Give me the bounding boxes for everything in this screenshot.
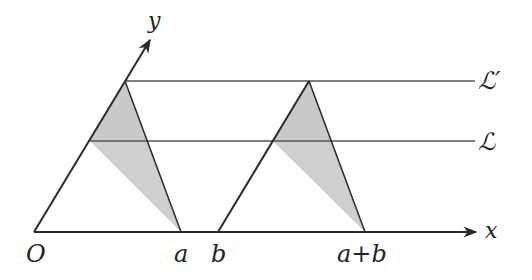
tick-label-a-plus-b: a+b bbox=[337, 240, 387, 268]
right-triangle-shading bbox=[273, 81, 365, 232]
diagram-canvas: y x O a b a+b ℒ′ ℒ bbox=[0, 0, 532, 280]
line-L-prime-label: ℒ′ bbox=[478, 67, 501, 95]
left-triangle-shading bbox=[90, 81, 181, 232]
tick-label-b: b bbox=[211, 240, 226, 268]
tick-label-a: a bbox=[174, 240, 188, 268]
line-L-label: ℒ bbox=[478, 128, 496, 156]
x-axis-label: x bbox=[485, 218, 498, 243]
origin-label: O bbox=[26, 240, 46, 268]
y-axis-label: y bbox=[147, 8, 161, 33]
